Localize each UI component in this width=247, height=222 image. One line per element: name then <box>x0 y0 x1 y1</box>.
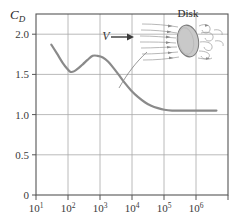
y-axis-title-main: C <box>10 7 19 22</box>
disk-inset-label: Disk <box>178 7 199 19</box>
y-tick-label-1-5: 1.5 <box>15 68 29 80</box>
y-tick-label-0: 0 <box>24 189 30 201</box>
x-tick-labels: 101 102 103 104 105 106 <box>29 201 204 214</box>
x-tick-mantissa: 10 <box>61 202 73 214</box>
x-tick-mantissa: 10 <box>189 202 201 214</box>
chart-canvas: 0 0.5 1.0 1.5 2.0 101 102 103 104 105 10… <box>0 0 247 222</box>
x-tick-mantissa: 10 <box>29 202 41 214</box>
y-tick-label-1-0: 1.0 <box>15 109 29 121</box>
x-tick-label-1e6: 106 <box>189 201 204 214</box>
x-tick-label-1e1: 101 <box>29 201 44 214</box>
y-tick-label-0-5: 0.5 <box>15 149 29 161</box>
y-axis-title-subscript: D <box>18 14 26 24</box>
x-tick-exponent: 1 <box>40 201 44 210</box>
x-tick-exponent: 3 <box>104 201 108 210</box>
x-tick-exponent: 5 <box>168 201 172 210</box>
x-tick-mantissa: 10 <box>157 202 169 214</box>
x-tick-mantissa: 10 <box>93 202 105 214</box>
x-axis-ticks <box>36 195 228 200</box>
x-tick-exponent: 6 <box>200 201 204 210</box>
x-tick-exponent: 2 <box>72 201 76 210</box>
x-tick-label-1e5: 105 <box>157 201 172 214</box>
y-axis-ticks <box>32 34 36 195</box>
x-tick-mantissa: 10 <box>125 202 137 214</box>
y-tick-label-2-0: 2.0 <box>15 28 29 40</box>
x-tick-label-1e2: 102 <box>61 201 76 214</box>
y-axis-title: CD <box>10 7 26 24</box>
drag-coefficient-figure: 0 0.5 1.0 1.5 2.0 101 102 103 104 105 10… <box>0 0 247 222</box>
x-tick-label-1e4: 104 <box>125 201 140 214</box>
x-tick-label-1e3: 103 <box>93 201 108 214</box>
x-tick-exponent: 4 <box>136 201 140 210</box>
